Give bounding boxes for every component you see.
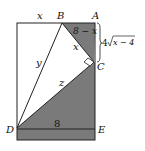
- label-bd: y: [35, 57, 42, 68]
- label-bc: x: [73, 41, 79, 52]
- geometry-diagram: A B C D E x 8 − x x y z 8 4 x − 4: [0, 0, 145, 151]
- point-label-d: D: [5, 124, 14, 135]
- point-label-e: E: [97, 124, 106, 135]
- label-dc: z: [58, 77, 65, 88]
- label-ac: 4 x − 4: [102, 36, 135, 48]
- point-label-c: C: [97, 61, 105, 72]
- label-de: 8: [54, 118, 60, 129]
- point-label-a: A: [91, 10, 99, 21]
- point-label-b: B: [56, 10, 64, 21]
- label-ac-prefix: 4: [102, 38, 108, 48]
- label-ba: 8 − x: [73, 26, 97, 36]
- label-top-x: x: [37, 10, 43, 21]
- label-ac-radicand: x − 4: [113, 38, 134, 47]
